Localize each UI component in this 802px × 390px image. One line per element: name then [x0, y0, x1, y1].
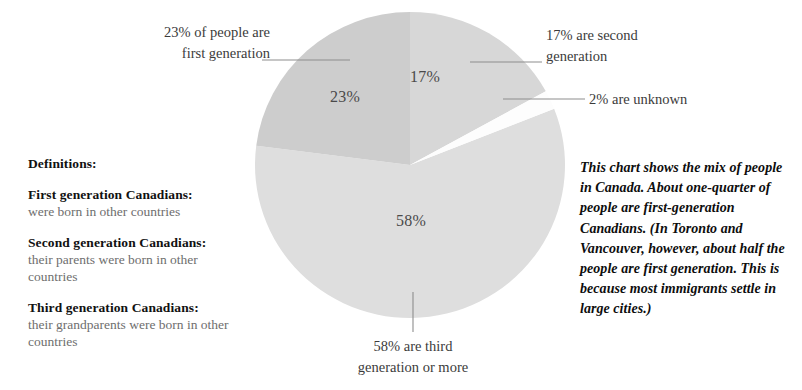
callout-unknown: 2% are unknown	[589, 89, 774, 110]
definition-item: Second generation Canadians: their paren…	[28, 234, 233, 286]
callout-third-generation: 58% are third generation or more	[318, 336, 508, 378]
definition-description: were born in other countries	[28, 203, 233, 221]
definition-term: Third generation Canadians:	[28, 299, 233, 316]
definition-item: First generation Canadians: were born in…	[28, 186, 233, 221]
definition-term: Second generation Canadians:	[28, 234, 233, 251]
slice-label-second-generation: 17%	[410, 68, 440, 86]
callout-second-generation: 17% are second generation	[546, 25, 726, 67]
definition-description: their parents were born in other countri…	[28, 251, 233, 286]
definition-term: First generation Canadians:	[28, 186, 233, 203]
definition-item: Third generation Canadians: their grandp…	[28, 299, 233, 351]
commentary-text: This chart shows the mix of people in Ca…	[580, 158, 786, 320]
slice-label-first-generation: 23%	[330, 88, 360, 106]
definitions-panel: Definitions: First generation Canadians:…	[28, 156, 233, 364]
slice-label-third-generation: 58%	[396, 212, 426, 230]
chart-figure: 23% 17% 58% 23% of people are first gene…	[0, 0, 802, 390]
definitions-title: Definitions:	[28, 156, 233, 172]
definition-description: their grandparents were born in other co…	[28, 316, 233, 351]
callout-first-generation: 23% of people are first generation	[105, 22, 270, 64]
